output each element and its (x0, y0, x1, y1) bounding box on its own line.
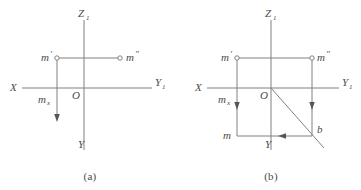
point-label-m-sub-x-a: m (38, 93, 46, 105)
diagonal-line-ob-b (271, 88, 324, 148)
z-axis-sublabel-b: 1 (273, 14, 277, 22)
origin-label-a: O (72, 89, 80, 101)
arrowhead-down-right-b (309, 102, 314, 110)
panel-caption-b: (b) (181, 170, 361, 182)
point-sublabel-m-sub-x-a: x (46, 99, 51, 107)
marker-m-double-prime-a (118, 56, 122, 60)
point-label-m-double-prime-b: m (317, 51, 325, 63)
marker-m-prime-b (235, 56, 239, 60)
point-label-m-sub-x-b: m (218, 93, 226, 105)
point-label-m-prime-b: m (221, 51, 229, 63)
y-axis-label-b: Y (265, 138, 273, 150)
marker-m-prime-a (55, 56, 59, 60)
diagram-a-svg: Z 1 X Y 1 Y O m ′ m ″ m x (0, 0, 180, 190)
diagram-panel-b: Z 1 X Y 1 Y O m ′ m ″ m x m b (b) (181, 0, 361, 190)
z-axis-label-b: Z (265, 7, 272, 19)
y1-axis-sublabel-a: 1 (162, 83, 166, 91)
arrowhead-down-a (54, 114, 60, 122)
diagram-panel-a: Z 1 X Y 1 Y O m ′ m ″ m x (a) (0, 0, 180, 190)
point-sublabel-m-sub-x-b: x (226, 99, 231, 107)
point-label-m-prime-a: m (41, 51, 49, 63)
y1-axis-sublabel-b: 1 (349, 83, 353, 91)
point-prime-mark-m-double-prime-b: ″ (326, 49, 330, 59)
diagram-b-svg: Z 1 X Y 1 Y O m ′ m ″ m x m b (181, 0, 361, 190)
x-axis-label-b: X (194, 81, 203, 93)
z-axis-label-a: Z (78, 7, 85, 19)
point-label-b-b: b (317, 123, 323, 135)
panel-caption-a: (a) (0, 170, 180, 182)
y-axis-label-a: Y (78, 138, 86, 150)
z-axis-sublabel-a: 1 (86, 14, 90, 22)
arrowhead-left-bottom-b (278, 133, 286, 138)
point-prime-mark-m-prime-a: ′ (50, 49, 53, 59)
arrowhead-down-left-b (234, 102, 239, 110)
point-label-m-b: m (223, 129, 231, 141)
point-prime-mark-m-prime-b: ′ (230, 49, 233, 59)
origin-label-b: O (260, 89, 268, 101)
marker-m-double-prime-b (310, 56, 314, 60)
x-axis-label-a: X (9, 81, 18, 93)
figure-root: Z 1 X Y 1 Y O m ′ m ″ m x (a) (0, 0, 361, 190)
point-label-m-double-prime-a: m (126, 51, 134, 63)
point-prime-mark-m-double-prime-a: ″ (135, 49, 139, 59)
